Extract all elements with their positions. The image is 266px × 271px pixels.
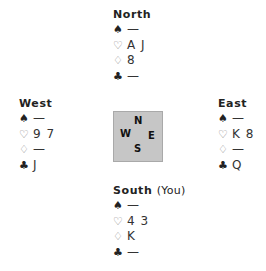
- east-hearts-cards: K 8: [232, 127, 254, 141]
- west-hearts-row: ♡9 7: [19, 127, 55, 143]
- east-clubs-cards: Q: [232, 158, 242, 172]
- south-hearts-cards[interactable]: 4 3: [127, 214, 149, 228]
- west-diamonds-cards: —: [33, 142, 46, 156]
- east-hearts-row: ♡K 8: [218, 127, 254, 143]
- east-diamonds-row: ♢—: [218, 142, 254, 158]
- compass-east-label: E: [148, 130, 155, 141]
- east-hand-title: East: [218, 96, 254, 111]
- diamond-icon: ♢: [19, 142, 33, 158]
- spade-icon: ♠: [113, 198, 127, 214]
- heart-icon: ♡: [218, 127, 232, 143]
- compass-box: N W E S: [113, 111, 163, 162]
- north-hearts-row: ♡A J: [113, 38, 151, 54]
- north-clubs-cards: —: [127, 69, 140, 83]
- east-diamonds-cards: —: [232, 142, 245, 156]
- club-icon: ♣: [218, 158, 232, 174]
- north-clubs-row: ♣—: [113, 69, 151, 85]
- west-clubs-row: ♣J: [19, 158, 55, 174]
- east-clubs-row: ♣Q: [218, 158, 254, 174]
- club-icon: ♣: [113, 69, 127, 85]
- south-spades-row: ♠—: [113, 198, 185, 214]
- north-diamonds-row: ♢8: [113, 53, 151, 69]
- west-hearts-cards: 9 7: [33, 127, 55, 141]
- east-spades-cards: —: [232, 111, 245, 125]
- west-clubs-cards: J: [33, 158, 38, 172]
- south-hand-title: South (You): [113, 183, 185, 198]
- north-spades-row: ♠—: [113, 22, 151, 38]
- east-hand: East ♠— ♡K 8 ♢— ♣Q: [218, 96, 254, 173]
- north-hearts-cards: A J: [127, 38, 146, 52]
- north-spades-cards: —: [127, 22, 140, 36]
- south-hand: South (You) ♠— ♡4 3 ♢K ♣—: [113, 183, 185, 260]
- north-hand-title: North: [113, 7, 151, 22]
- west-spades-cards: —: [33, 111, 46, 125]
- south-diamonds-row[interactable]: ♢K: [113, 229, 185, 245]
- north-hand: North ♠— ♡A J ♢8 ♣—: [113, 7, 151, 84]
- south-diamonds-cards[interactable]: K: [127, 229, 136, 243]
- west-hand-title: West: [19, 96, 55, 111]
- spade-icon: ♠: [19, 111, 33, 127]
- west-spades-row: ♠—: [19, 111, 55, 127]
- compass-south-label: S: [134, 143, 141, 154]
- east-name: East: [218, 97, 247, 110]
- north-diamonds-cards: 8: [127, 53, 136, 67]
- heart-icon: ♡: [113, 214, 127, 230]
- west-diamonds-row: ♢—: [19, 142, 55, 158]
- diamond-icon: ♢: [218, 142, 232, 158]
- south-clubs-row: ♣—: [113, 245, 185, 261]
- east-spades-row: ♠—: [218, 111, 254, 127]
- compass-north-label: N: [134, 115, 142, 126]
- south-name: South: [113, 184, 152, 197]
- club-icon: ♣: [113, 245, 127, 261]
- spade-icon: ♠: [113, 22, 127, 38]
- south-clubs-cards: —: [127, 245, 140, 259]
- west-name: West: [19, 97, 52, 110]
- heart-icon: ♡: [19, 127, 33, 143]
- diamond-icon: ♢: [113, 53, 127, 69]
- diamond-icon: ♢: [113, 229, 127, 245]
- compass-west-label: W: [120, 128, 131, 139]
- spade-icon: ♠: [218, 111, 232, 127]
- west-hand: West ♠— ♡9 7 ♢— ♣J: [19, 96, 55, 173]
- heart-icon: ♡: [113, 38, 127, 54]
- club-icon: ♣: [19, 158, 33, 174]
- south-hearts-row[interactable]: ♡4 3: [113, 214, 185, 230]
- south-spades-cards: —: [127, 198, 140, 212]
- north-name: North: [113, 8, 151, 21]
- south-you-label: (You): [157, 184, 186, 197]
